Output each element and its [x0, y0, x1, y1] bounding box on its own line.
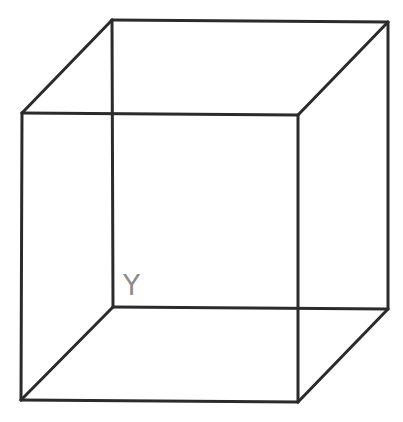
cube-diagram	[0, 0, 403, 422]
edge-connect-bottom-left	[21, 307, 113, 400]
edge-back-bottom	[113, 307, 388, 309]
edge-front-top	[22, 113, 298, 115]
edge-connect-bottom-right	[298, 309, 388, 402]
edge-connect-top-left	[22, 20, 112, 113]
vertex-label-y: Y	[123, 272, 140, 300]
edge-back-left	[112, 20, 113, 307]
edge-connect-top-right	[298, 22, 388, 115]
edge-front-left	[21, 113, 22, 400]
edge-front-bottom	[21, 400, 298, 402]
edge-back-top	[112, 20, 388, 22]
